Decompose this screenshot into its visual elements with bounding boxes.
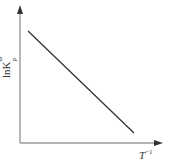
y-axis-label: lnK⊖p <box>1 58 17 78</box>
y-axis-arrow-icon <box>17 5 23 14</box>
plot-canvas <box>0 0 172 168</box>
x-axis-arrow-icon <box>154 140 163 146</box>
x-label-sup: −1 <box>145 148 152 156</box>
y-label-main: lnK <box>0 62 12 79</box>
y-label-sub: p <box>10 58 18 62</box>
x-axis-label: T−1 <box>139 148 153 161</box>
data-line <box>28 31 134 133</box>
y-label-sup: ⊖ <box>0 56 6 62</box>
